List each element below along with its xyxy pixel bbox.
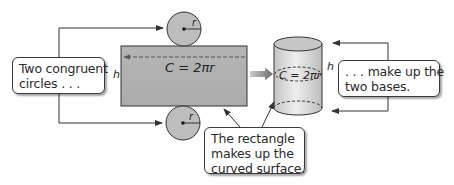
transform-arrow-icon: [250, 68, 273, 81]
callout-line: Two congruent: [19, 61, 98, 76]
rectangle-circumference-label: C = 2πr: [165, 60, 216, 75]
rectangle-lateral-surface: [121, 46, 247, 106]
callout-rectangle-curved-surface: The rectangle makes up the curved surfac…: [204, 127, 305, 174]
cylinder-height-label: h: [327, 60, 334, 73]
callout-line: makes up the: [211, 146, 298, 161]
cylinder-circumference-label: C = 2πr: [279, 69, 323, 82]
callout-line: . . . make up the: [345, 64, 433, 79]
bottom-circle-base: [166, 106, 200, 140]
cylinder-net-diagram: r r h h C = 2πr C = 2πr Two congruent ci…: [0, 0, 454, 185]
callout-line: two bases.: [345, 79, 433, 94]
callout-make-up-two-bases: . . . make up the two bases.: [338, 60, 440, 97]
callout-two-congruent-circles: Two congruent circles . . .: [12, 57, 105, 94]
rectangle-height-label: h: [113, 68, 120, 81]
callout-line: circles . . .: [19, 76, 98, 91]
callout-line: The rectangle: [211, 131, 298, 146]
callout-line: curved surface.: [211, 161, 298, 176]
